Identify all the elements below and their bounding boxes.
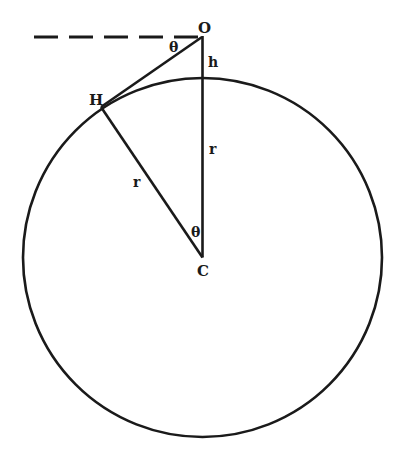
label-H: H (89, 91, 103, 109)
tangent-line-OH (101, 37, 202, 107)
horizon-diagram: O θ h H r r θ C (0, 0, 402, 458)
label-C: C (197, 262, 209, 280)
diagram-canvas: O θ h H r r θ C (0, 0, 402, 458)
label-O: O (198, 19, 211, 37)
label-theta-top: θ (169, 39, 178, 55)
radius-line-HC (101, 107, 203, 258)
label-r-vertical: r (209, 141, 217, 157)
label-r-slant: r (133, 174, 141, 190)
label-theta-center: θ (191, 224, 200, 240)
label-h: h (208, 54, 218, 70)
